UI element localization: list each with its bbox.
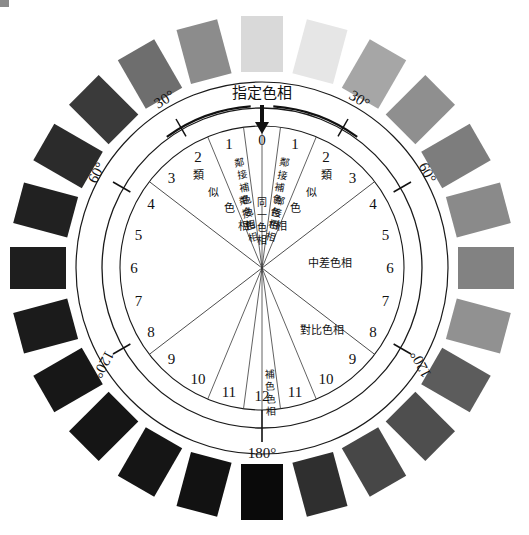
svg-text:相: 相 <box>245 217 257 231</box>
label-similar-hue-right: 類 <box>321 169 332 182</box>
page-title: 指定色相 <box>232 84 292 102</box>
label-similar-hue-left: 類 <box>193 169 204 182</box>
hue-swatch <box>446 183 511 238</box>
hue-swatch <box>458 247 514 289</box>
hue-step-number: 0 <box>258 132 266 148</box>
top-arc-left <box>167 106 251 136</box>
label-similar-hue-left: 色 <box>224 201 235 215</box>
hue-step-number: 4 <box>147 196 155 212</box>
down-arrow-icon <box>255 105 269 134</box>
degree-label: 180° <box>248 445 277 461</box>
hue-swatch <box>386 75 455 144</box>
svg-text:色: 色 <box>240 193 252 207</box>
sector-divider <box>149 268 262 354</box>
hue-step-number: 1 <box>225 136 233 152</box>
svg-text:色: 色 <box>272 193 284 207</box>
hue-swatch <box>13 183 78 238</box>
hue-swatch <box>342 427 406 497</box>
hue-step-number: 6 <box>386 260 394 276</box>
hue-step-number: 8 <box>147 324 155 340</box>
hue-step-number: 9 <box>349 351 357 367</box>
sector-divider <box>208 137 262 268</box>
hue-swatch <box>69 75 138 144</box>
svg-text:鄰: 鄰 <box>278 156 290 170</box>
hue-swatch <box>446 298 511 353</box>
hue-step-number: 11 <box>288 384 302 400</box>
hue-swatch <box>292 19 347 84</box>
svg-text:色: 色 <box>265 393 275 405</box>
hue-step-number: 8 <box>369 324 377 340</box>
hue-step-number: 3 <box>168 170 176 186</box>
top-arc-right <box>273 106 357 136</box>
hue-step-number: 6 <box>130 260 138 276</box>
hue-swatch <box>118 427 182 497</box>
svg-text:接: 接 <box>276 168 288 182</box>
hue-step-number: 10 <box>319 371 334 387</box>
label-adjacent-complement-right: 鄰接補色色相 <box>267 156 290 231</box>
hue-swatch <box>10 247 66 289</box>
hue-step-number: 2 <box>194 149 202 165</box>
hue-step-number: 2 <box>322 149 330 165</box>
hue-step-number: 5 <box>135 227 143 243</box>
hue-swatch <box>421 348 491 412</box>
svg-text:色: 色 <box>270 205 282 219</box>
hue-step-number: 10 <box>191 371 206 387</box>
hue-swatch <box>177 452 232 517</box>
hue-step-number: 3 <box>349 170 357 186</box>
svg-text:補: 補 <box>264 368 274 380</box>
svg-text:一: 一 <box>257 210 267 221</box>
label-similar-hue-right: 色 <box>290 201 301 215</box>
svg-text:鄰: 鄰 <box>234 156 246 170</box>
label-similar-hue-right: 似 <box>306 186 317 199</box>
svg-text:色: 色 <box>242 205 254 219</box>
hue-swatch <box>69 392 138 461</box>
label-contrast-hue-right: 對比色相 <box>300 323 344 337</box>
svg-text:相: 相 <box>267 217 279 231</box>
sector-divider <box>208 268 262 399</box>
hue-swatch <box>292 452 347 517</box>
hue-step-number: 9 <box>168 351 176 367</box>
svg-text:同: 同 <box>257 197 267 208</box>
hue-swatch <box>177 19 232 84</box>
label-similar-hue-left: 似 <box>208 186 219 199</box>
degree-label: 120° <box>407 348 435 381</box>
svg-text:接: 接 <box>236 168 248 182</box>
hue-swatch <box>241 464 283 520</box>
hue-step-number: 11 <box>222 384 236 400</box>
svg-text:補: 補 <box>238 180 250 194</box>
hue-step-number: 7 <box>135 293 143 309</box>
hue-swatch <box>13 298 78 353</box>
hue-step-number: 1 <box>291 136 299 152</box>
hue-step-number: 4 <box>369 196 377 212</box>
label-medium-hue-right: 中差色相 <box>308 256 352 270</box>
sector-divider <box>262 268 375 354</box>
hue-step-number: 5 <box>382 227 390 243</box>
color-wheel-svg: 01212345678910111234567891011 30°30°60°6… <box>0 0 529 535</box>
hue-step-number: 7 <box>382 293 390 309</box>
svg-text:相: 相 <box>266 405 276 417</box>
page-corner-mark <box>0 0 9 7</box>
hue-swatch <box>33 348 103 412</box>
color-wheel-figure: 01212345678910111234567891011 30°30°60°6… <box>0 0 529 535</box>
svg-text:色: 色 <box>265 380 275 392</box>
svg-text:色: 色 <box>257 221 267 233</box>
svg-text:補: 補 <box>274 180 286 194</box>
hue-swatch <box>241 16 283 72</box>
hue-swatch <box>386 392 455 461</box>
